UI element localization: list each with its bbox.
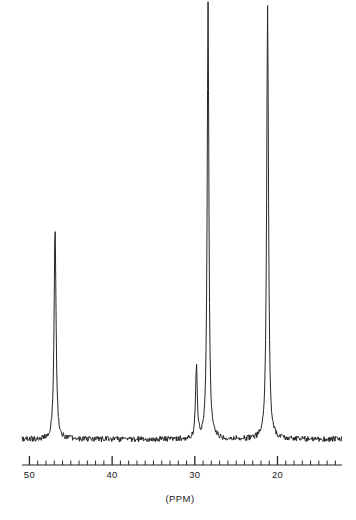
axis-tick-label: 50 <box>24 469 35 480</box>
axis-tick-labels: 50403020 <box>24 469 283 480</box>
axis-title-ppm: (PPM) <box>166 493 195 504</box>
axis-tick-label: 20 <box>272 469 283 480</box>
nmr-spectrum-figure: 50403020 (PPM) <box>0 0 356 520</box>
ppm-axis: 50403020 <box>22 456 342 480</box>
spectrum-trace-path <box>22 2 342 442</box>
spectrum-trace <box>22 2 342 442</box>
axis-ticks <box>29 456 335 465</box>
axis-tick-label: 40 <box>107 469 118 480</box>
axis-tick-label: 30 <box>189 469 200 480</box>
spectrum-canvas: 50403020 (PPM) <box>0 0 356 520</box>
